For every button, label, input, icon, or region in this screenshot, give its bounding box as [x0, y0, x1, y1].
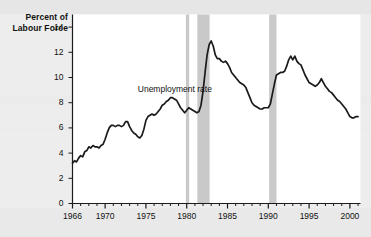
- y-tick-label: 6: [42, 122, 64, 132]
- x-tick-label: 1970: [85, 211, 125, 221]
- y-tick-label: 12: [42, 47, 64, 57]
- x-tick-label: 1975: [126, 211, 166, 221]
- x-tick-label: 1985: [208, 211, 248, 221]
- y-tick-label: 10: [42, 72, 64, 82]
- y-tick-label: 14: [42, 22, 64, 32]
- y-tick-label: 8: [42, 97, 64, 107]
- x-tick-label: 1980: [167, 211, 207, 221]
- y-tick-label: 2: [42, 173, 64, 183]
- y-tick-label: 4: [42, 148, 64, 158]
- recession-band-2: [269, 15, 276, 204]
- plot-panel: [73, 15, 361, 204]
- x-tick-label: 1995: [289, 211, 329, 221]
- x-tick-label: 1990: [248, 211, 288, 221]
- x-tick-label: 2000: [330, 211, 370, 221]
- series-annotation: Unemployment rate: [138, 84, 212, 94]
- unemployment-rate-chart: Percent of Labour Force 02468101214 1966…: [0, 0, 371, 237]
- y-tick-label: 0: [42, 198, 64, 208]
